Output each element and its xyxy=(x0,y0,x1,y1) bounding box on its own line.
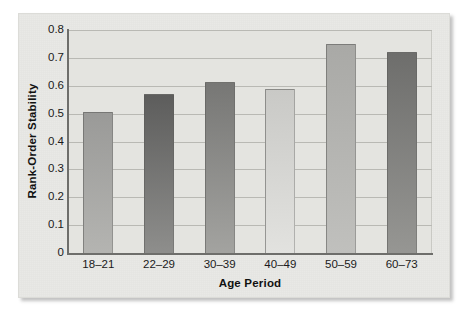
bar-slot xyxy=(189,30,250,253)
bar[interactable] xyxy=(205,82,235,253)
y-axis-title: Rank-Order Stability xyxy=(26,56,38,226)
bars-group xyxy=(68,30,432,253)
x-axis-tick-label: 18–21 xyxy=(68,259,129,275)
bar[interactable] xyxy=(326,44,356,253)
x-axis-tick-label: 60–73 xyxy=(371,259,432,275)
x-axis-title: Age Period xyxy=(68,277,432,289)
bar[interactable] xyxy=(144,94,174,253)
bar-slot xyxy=(371,30,432,253)
x-axis-tick-label: 30–39 xyxy=(189,259,250,275)
y-axis-tick-label: 0 xyxy=(20,247,64,259)
y-axis-tick-labels: 0.80.70.60.50.40.30.20.10 xyxy=(14,0,64,320)
x-axis-tick-label: 50–59 xyxy=(311,259,372,275)
bar-slot xyxy=(68,30,129,253)
x-axis-tick-label: 22–29 xyxy=(129,259,190,275)
bar[interactable] xyxy=(83,112,113,253)
bar-slot xyxy=(250,30,311,253)
bar-slot xyxy=(311,30,372,253)
y-axis-tick-label: 0.8 xyxy=(20,24,64,36)
figure-container: 0.80.70.60.50.40.30.20.10 18–2122–2930–3… xyxy=(0,0,466,320)
x-axis-tick-label: 40–49 xyxy=(250,259,311,275)
x-axis-tick-labels: 18–2122–2930–3940–4950–5960–73 xyxy=(68,259,432,275)
bar[interactable] xyxy=(265,89,295,253)
bar-slot xyxy=(129,30,190,253)
bar[interactable] xyxy=(387,52,417,253)
x-axis-line xyxy=(67,253,433,255)
